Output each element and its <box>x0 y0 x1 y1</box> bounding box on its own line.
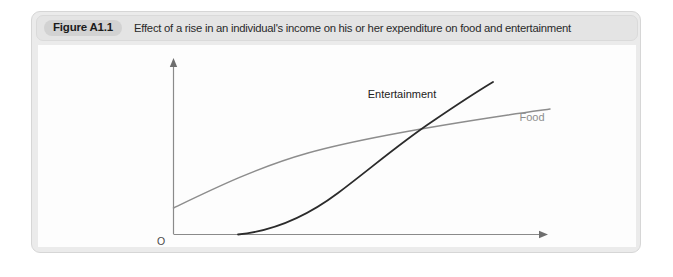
figure-container: Figure A1.1 Effect of a rise in an indiv… <box>31 11 641 253</box>
chart-svg: O Individual's income Expenditure on foo… <box>38 45 636 247</box>
x-axis-label: Individual's income <box>281 246 362 247</box>
chart-plot-area: O Individual's income Expenditure on foo… <box>38 45 636 247</box>
figure-header: Figure A1.1 Effect of a rise in an indiv… <box>36 15 638 41</box>
figure-caption: Effect of a rise in an individual's inco… <box>134 22 571 34</box>
figure-number-badge: Figure A1.1 <box>44 20 122 37</box>
y-axis-arrow-icon <box>170 58 177 67</box>
origin-label: O <box>157 235 165 247</box>
curve-entertainment <box>238 82 493 235</box>
x-axis-arrow-icon <box>539 231 548 238</box>
curve-label-entertainment: Entertainment <box>368 88 436 100</box>
curve-food <box>174 109 551 208</box>
curve-label-food: Food <box>519 111 544 123</box>
